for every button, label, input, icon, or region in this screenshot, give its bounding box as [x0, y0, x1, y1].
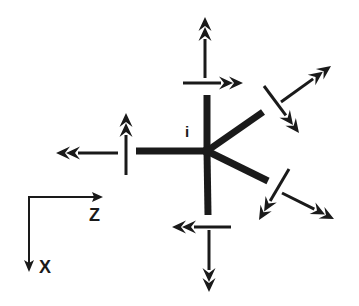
coordinate-axes: Z X [24, 192, 103, 277]
joint-node [202, 146, 212, 156]
bottom-axial-arrow [203, 230, 216, 292]
left-shear-arrow [120, 113, 133, 175]
arrowhead-icon [308, 72, 323, 85]
left-axial-arrow [56, 147, 118, 160]
lower-right-axial-arrow [282, 193, 334, 219]
node-label: i [185, 123, 189, 140]
z-axis-label: Z [89, 205, 100, 225]
member-lower-right [207, 151, 268, 181]
x-axis-label: X [39, 257, 51, 277]
joint-force-diagram: Z X i [0, 0, 359, 306]
upper-right-axial-arrow [281, 66, 331, 102]
top-axial-arrow [199, 17, 212, 78]
arrowhead-icon [279, 110, 293, 125]
member-upper-right [207, 112, 263, 151]
arrow-shaft [282, 193, 314, 209]
member-down [207, 151, 208, 215]
bottom-shear-arrow [172, 221, 231, 234]
members-group [136, 95, 268, 215]
top-shear-arrow [183, 77, 243, 90]
arrow-shaft [281, 79, 313, 102]
diagram-svg: Z X i [0, 0, 359, 306]
